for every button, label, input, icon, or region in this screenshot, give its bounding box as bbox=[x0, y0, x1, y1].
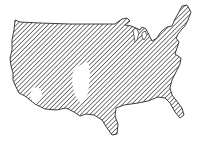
us-map bbox=[0, 0, 199, 142]
us-outline-shaded bbox=[10, 5, 191, 135]
